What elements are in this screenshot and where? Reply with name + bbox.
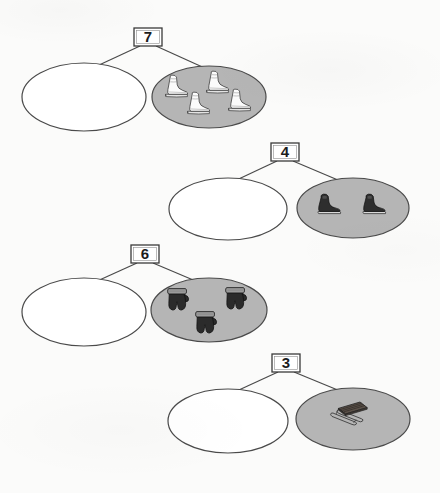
total-value-1: 7: [144, 28, 152, 45]
bond-group-3: 6: [22, 245, 267, 346]
empty-part-ellipse-1[interactable]: [22, 63, 146, 131]
number-bond-diagram: 7 4: [0, 0, 440, 493]
total-value-2: 4: [281, 143, 290, 160]
worksheet-sheet: 7 4: [0, 0, 440, 493]
empty-part-ellipse-4[interactable]: [168, 389, 288, 453]
bond-group-4: 3: [168, 354, 410, 453]
total-value-3: 6: [141, 245, 149, 262]
empty-part-ellipse-2[interactable]: [169, 178, 287, 240]
total-value-4: 3: [282, 354, 290, 371]
bond-group-2: 4: [169, 143, 409, 240]
item-mitten-3-3: [196, 312, 217, 333]
empty-part-ellipse-3[interactable]: [22, 278, 146, 346]
item-mitten-3-2: [226, 288, 247, 309]
filled-part-ellipse-2: [297, 178, 409, 238]
bond-group-1: 7: [22, 28, 266, 131]
item-mitten-3-1: [168, 289, 189, 310]
